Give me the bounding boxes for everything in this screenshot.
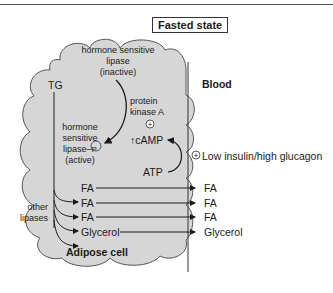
cell-glycerol: Glycerol [81,226,120,238]
atp-label: ATP [143,166,163,178]
cell-fa-3: FA [81,211,94,223]
blood-fa-2: FA [204,197,217,209]
cell-fa-1: FA [81,182,94,194]
svg-text:+: + [194,152,198,159]
hsl-inactive-label: hormone sensitive lipase (inactive) [78,45,158,78]
other-lipases-label: other lipases [18,202,48,224]
signal-label: Low insulin/high glucagon [202,150,322,162]
blood-label: Blood [202,78,232,90]
blood-fa-1: FA [204,182,217,194]
adipose-cell-label: Adipose cell [66,246,128,258]
svg-text:+: + [148,121,152,128]
tg-label: TG [48,79,63,91]
title-fasted-state: Fasted state [152,17,228,33]
cell-fa-2: FA [81,197,94,209]
diagram-canvas: + + [0,0,333,293]
blood-glycerol: Glycerol [204,226,243,238]
blood-fa-3: FA [204,211,217,223]
hsl-active-label: hormone sensitive lipase–P (active) [58,122,102,166]
pka-label: protein kinase A [130,96,164,118]
camp-label: ↑cAMP [130,134,163,146]
